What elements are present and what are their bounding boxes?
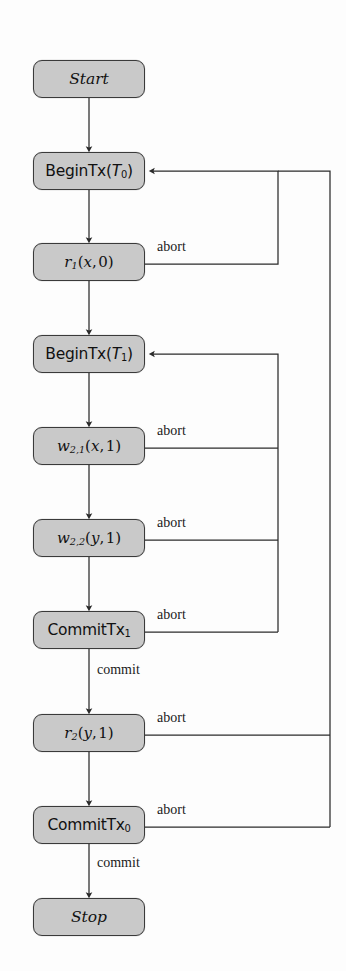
edge-label-abort-w22: abort — [157, 515, 186, 531]
node-commit-tx-t0[interactable]: CommitTx0 — [33, 806, 145, 844]
node-start[interactable]: Start — [33, 60, 145, 98]
node-commit-tx-t0-label: CommitTx0 — [47, 816, 130, 834]
node-stop-label: Stop — [71, 908, 107, 926]
node-begin-tx-t0[interactable]: BeginTx(T0) — [33, 152, 145, 190]
edge-label-abort-commit-t0: abort — [157, 802, 186, 818]
node-begin-tx-t0-label: BeginTx(T0) — [45, 162, 132, 180]
node-w22[interactable]: w2,2(y, 1) — [33, 519, 145, 557]
node-commit-tx-t1[interactable]: CommitTx1 — [33, 611, 145, 649]
edge-label-abort-r2: abort — [157, 710, 186, 726]
node-r2-label: r2(y, 1) — [64, 724, 113, 742]
node-begin-tx-t1-label: BeginTx(T1) — [45, 345, 132, 363]
node-w21-label: w2,1(x, 1) — [57, 437, 121, 455]
node-stop[interactable]: Stop — [33, 898, 145, 936]
abort-riser-outer — [278, 171, 330, 827]
flowchart-canvas: Start BeginTx(T0) r1(x, 0) BeginTx(T1) w… — [0, 0, 346, 971]
edge-label-abort-r1: abort — [157, 239, 186, 255]
node-commit-tx-t1-label: CommitTx1 — [47, 621, 130, 639]
node-start-label: Start — [69, 70, 109, 88]
edge-label-commit-t1: commit — [97, 662, 140, 678]
node-r1-label: r1(x, 0) — [64, 253, 113, 271]
node-begin-tx-t1[interactable]: BeginTx(T1) — [33, 335, 145, 373]
node-w21[interactable]: w2,1(x, 1) — [33, 427, 145, 465]
abort-riser-inner — [152, 354, 278, 632]
edge-label-abort-commit-t1: abort — [157, 607, 186, 623]
node-r2[interactable]: r2(y, 1) — [33, 714, 145, 752]
node-w22-label: w2,2(y, 1) — [57, 529, 121, 547]
edge-label-commit-t0: commit — [97, 855, 140, 871]
node-r1[interactable]: r1(x, 0) — [33, 243, 145, 281]
edge-label-abort-w21: abort — [157, 423, 186, 439]
